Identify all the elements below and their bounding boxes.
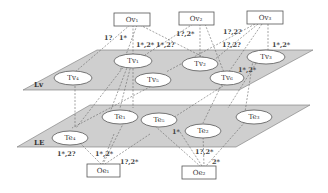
- bottom-box-oe1[interactable]: Oe₁: [87, 164, 120, 177]
- top-box-ov3[interactable]: Ov₃: [247, 11, 283, 24]
- bottom-box-oe2-label: Oe₂: [193, 169, 206, 177]
- edge-label: 1*,2?: [156, 41, 175, 49]
- node-tv2-label: Tv₂: [194, 60, 206, 68]
- edge-label: 1*,2?: [57, 150, 76, 158]
- edge-label: 1?: [104, 34, 113, 42]
- edge-label: 2*: [212, 158, 221, 166]
- node-tv3[interactable]: Tv₃: [247, 50, 285, 64]
- edge-label: 1?,2*: [176, 30, 195, 38]
- edge-label: 1*,2*: [238, 66, 257, 74]
- node-tv5[interactable]: Tv₅: [135, 73, 171, 87]
- bottom-box-oe1-label: Oe₁: [97, 167, 110, 175]
- edge-label: 1*: [119, 34, 128, 42]
- bottom-box-oe2[interactable]: Oe₂: [182, 166, 216, 179]
- top-box-ov3-label: Ov₃: [259, 14, 272, 22]
- ontology-layer-diagram: Lv LE: [0, 0, 328, 193]
- node-te5[interactable]: Te₅: [141, 113, 177, 127]
- node-tv4[interactable]: Tv₄: [54, 71, 92, 85]
- edge-label: 1*: [172, 128, 181, 136]
- node-tv5-label: Tv₅: [147, 76, 159, 84]
- lower-plane-label: LE: [34, 138, 44, 147]
- node-tv1[interactable]: Tv₁: [114, 54, 152, 68]
- upper-plane-label: Lv: [34, 80, 44, 89]
- node-te4[interactable]: Te₄: [52, 131, 88, 145]
- node-te5-label: Te₅: [153, 116, 164, 124]
- node-te2-label: Te₂: [197, 127, 208, 135]
- node-te1[interactable]: Te₁: [102, 110, 138, 124]
- top-box-ov1-label: Ov₁: [126, 16, 139, 24]
- node-tv1-label: Tv₁: [127, 57, 139, 65]
- node-te3-label: Te₃: [248, 113, 259, 121]
- node-tv3-label: Tv₃: [260, 53, 272, 61]
- top-box-ov2[interactable]: Ov₂: [179, 12, 214, 25]
- node-te4-label: Te₄: [64, 134, 75, 142]
- edge-label: 1*,2*: [95, 150, 114, 158]
- edge-label: 1?,2*: [195, 148, 214, 156]
- node-te3[interactable]: Te₃: [236, 110, 272, 124]
- edge-label: 1*,2*: [272, 41, 291, 49]
- edge-label: 1*,2*: [136, 41, 155, 49]
- node-te1-label: Te₁: [114, 113, 125, 121]
- edge-label: 1?,2?: [222, 41, 241, 49]
- node-tv6-label: Tv₆: [221, 74, 233, 82]
- top-box-ov1[interactable]: Ov₁: [114, 13, 150, 26]
- node-te2[interactable]: Te₂: [185, 124, 221, 138]
- node-tv2[interactable]: Tv₂: [182, 57, 218, 71]
- edge-label: 1?,2*: [120, 158, 139, 166]
- edge-label: 1?,2?: [223, 28, 242, 36]
- top-box-ov2-label: Ov₂: [190, 15, 203, 23]
- node-tv4-label: Tv₄: [67, 74, 79, 82]
